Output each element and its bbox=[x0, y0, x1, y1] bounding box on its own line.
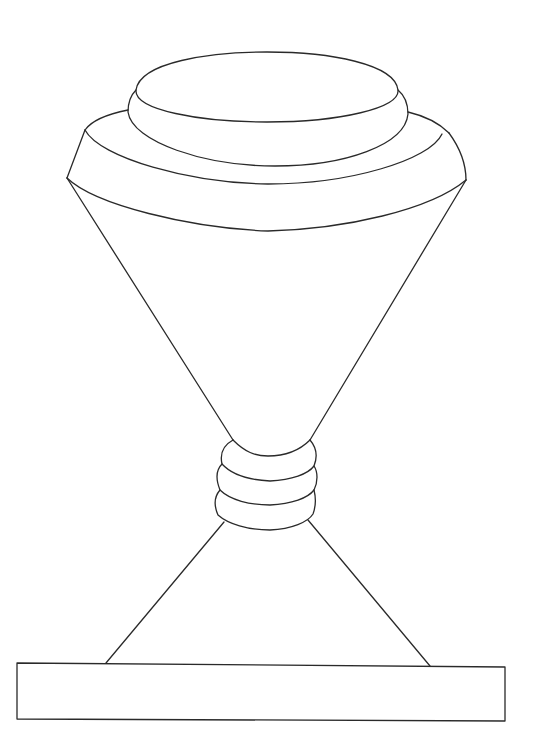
drawing-canvas bbox=[0, 0, 540, 754]
cone-body bbox=[67, 178, 466, 456]
lower-rim bbox=[67, 178, 466, 231]
upper-disk bbox=[128, 90, 408, 166]
support-legs bbox=[106, 520, 430, 666]
neck-rings bbox=[215, 440, 317, 530]
top-ellipse bbox=[136, 52, 398, 122]
base-slab bbox=[17, 663, 505, 721]
goblet-drawing bbox=[0, 0, 540, 754]
